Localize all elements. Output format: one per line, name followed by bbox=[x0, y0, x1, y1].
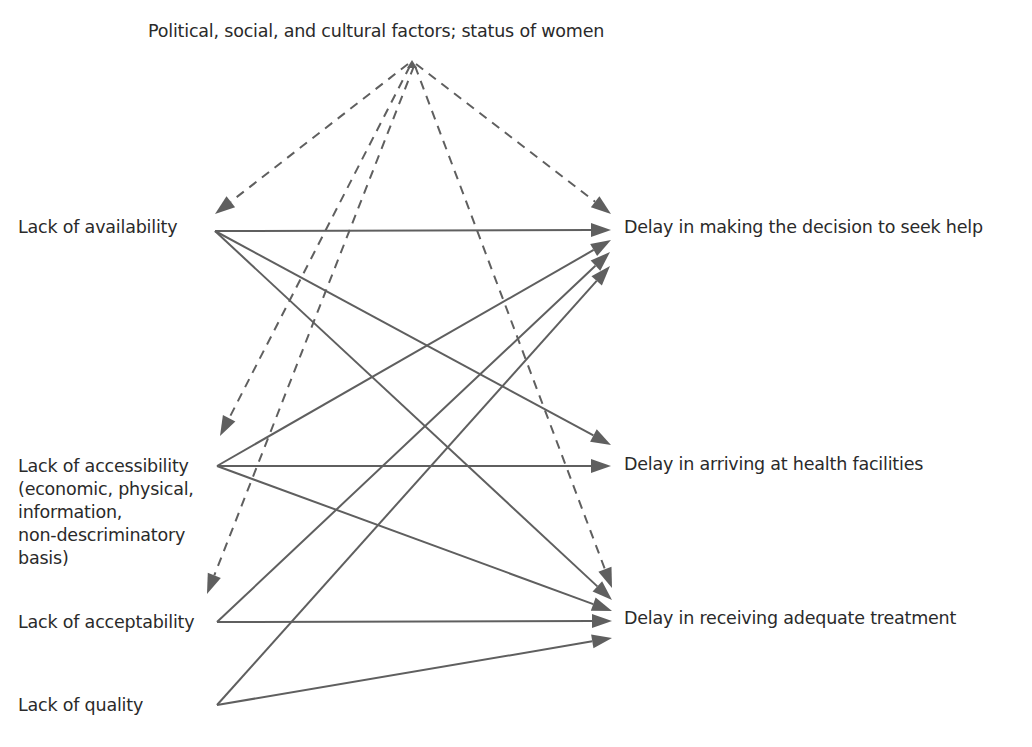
arrowhead-icon bbox=[591, 634, 612, 648]
edge-quality-to-decision bbox=[217, 281, 597, 705]
edge-factors-to-treatment bbox=[415, 66, 605, 569]
edge-accessibility-to-treatment bbox=[217, 466, 593, 604]
arrowhead-icon bbox=[592, 614, 612, 628]
source-arrowhead-icon bbox=[407, 60, 417, 68]
edge-factors-to-availability bbox=[231, 64, 408, 202]
arrowhead-icon bbox=[215, 196, 235, 214]
arrowhead-icon bbox=[590, 429, 611, 445]
edge-acceptability-to-decision bbox=[217, 266, 595, 622]
node-delay-decision: Delay in making the decision to seek hel… bbox=[624, 216, 983, 239]
edge-factors-to-accessibility bbox=[229, 66, 410, 418]
edge-availability-to-decision bbox=[215, 230, 591, 231]
edge-layer bbox=[0, 0, 1032, 747]
edge-factors-to-acceptability bbox=[214, 66, 414, 575]
node-delay-treatment: Delay in receiving adequate treatment bbox=[624, 607, 956, 630]
edges bbox=[207, 60, 612, 705]
arrowhead-icon bbox=[220, 415, 235, 436]
edge-factors-to-decision bbox=[416, 64, 595, 202]
edge-accessibility-to-decision bbox=[217, 250, 594, 466]
node-lack-of-accessibility: Lack of accessibility (economic, physica… bbox=[18, 455, 194, 570]
node-delay-arrival: Delay in arriving at health facilities bbox=[624, 453, 923, 476]
edge-quality-to-treatment bbox=[217, 641, 592, 705]
arrowhead-icon bbox=[591, 598, 612, 611]
edge-acceptability-to-treatment bbox=[217, 621, 592, 622]
edge-availability-to-arrival bbox=[215, 231, 593, 435]
node-lack-of-acceptability: Lack of acceptability bbox=[18, 611, 194, 634]
arrowhead-icon bbox=[207, 573, 221, 594]
arrowhead-icon bbox=[591, 196, 611, 214]
node-factors: Political, social, and cultural factors;… bbox=[148, 20, 604, 43]
edge-availability-to-treatment bbox=[215, 231, 597, 586]
node-lack-of-quality: Lack of quality bbox=[18, 694, 143, 717]
arrowhead-icon bbox=[591, 223, 611, 237]
arrowhead-icon bbox=[591, 459, 611, 473]
node-lack-of-availability: Lack of availability bbox=[18, 216, 177, 239]
